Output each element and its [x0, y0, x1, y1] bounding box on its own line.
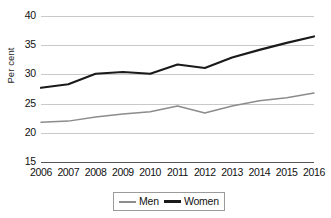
legend-item-men: Men: [119, 196, 159, 207]
legend-label-men: Men: [139, 196, 159, 207]
legend-swatch-men-icon: [119, 201, 136, 203]
legend-label-women: Women: [184, 196, 219, 207]
chart-legend: Men Women: [113, 192, 225, 211]
plot-area: [0, 0, 331, 218]
legend-item-women: Women: [164, 196, 219, 207]
line-chart: Per cent 152025303540 200620072008200920…: [0, 0, 331, 218]
legend-swatch-women-icon: [164, 200, 181, 203]
series-line-women: [41, 36, 314, 87]
series-line-men: [41, 93, 314, 122]
